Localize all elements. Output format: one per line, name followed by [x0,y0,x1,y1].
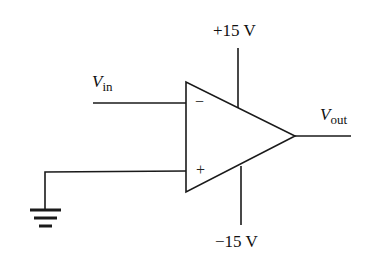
vin-label: Vin [92,73,113,90]
vout-main: V [320,105,330,124]
ground-icon [30,210,61,226]
vin-subscript: in [102,79,112,94]
inverting-input-sign: − [195,94,204,110]
ground-wire [45,171,186,210]
supply-positive-label: +15 V [213,22,256,39]
vout-label: Vout [320,106,347,123]
circuit-drawing [0,0,370,271]
supply-negative-label: −15 V [215,233,258,250]
noninverting-input-sign: + [196,162,205,178]
vout-subscript: out [330,112,347,127]
op-amp-diagram: +15 V −15 V Vin Vout − + [0,0,370,271]
vin-main: V [92,72,102,91]
